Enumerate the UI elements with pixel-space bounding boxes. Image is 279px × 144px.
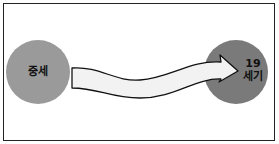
end-node-label: 19 세기 <box>238 57 268 83</box>
end-node-label-line2: 세기 <box>238 70 268 83</box>
start-node-label: 중세 <box>22 65 54 78</box>
end-node-label-line1: 19 <box>238 57 268 70</box>
